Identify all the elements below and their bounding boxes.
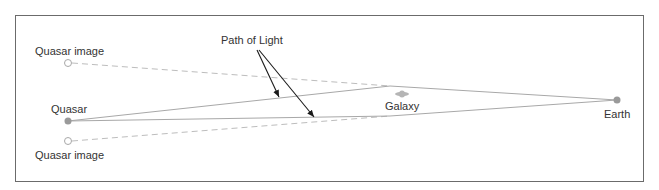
galaxy-icon: [395, 91, 409, 98]
quasar-image-bottom-icon: [65, 138, 72, 145]
path-of-light-arrows: [257, 50, 314, 117]
quasar-icon: [65, 118, 72, 125]
galaxy-label: Galaxy: [385, 101, 419, 112]
apparent-path-top: [72, 63, 390, 86]
quasar-image-top-label: Quasar image: [35, 46, 104, 57]
quasar-image-bottom-label: Quasar image: [35, 150, 104, 161]
light-path-lower: [68, 100, 617, 121]
earth-icon: [614, 97, 621, 104]
path-of-light-label: Path of Light: [221, 35, 283, 46]
earth-label: Earth: [604, 109, 630, 120]
light-path-upper: [68, 86, 617, 121]
lensing-diagram: [0, 0, 659, 190]
quasar-image-top-icon: [65, 60, 72, 67]
quasar-label: Quasar: [51, 104, 87, 115]
